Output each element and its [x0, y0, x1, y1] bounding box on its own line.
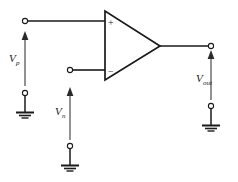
opamp-plus-sign: + [108, 17, 114, 28]
voltage-arrow-vn [67, 87, 74, 140]
ground-symbol-left [16, 90, 34, 118]
voltage-arrow-vout [208, 50, 215, 100]
arrow-head-vn-icon [67, 87, 74, 96]
circuit-diagram-canvas: + − V p [0, 0, 238, 182]
svg-text:p: p [15, 59, 20, 67]
input-terminal-minus[interactable] [67, 67, 72, 72]
svg-text:n: n [62, 112, 66, 120]
svg-text:out: out [203, 79, 213, 87]
ground-symbol-right [202, 103, 220, 131]
label-vn: V n [55, 105, 66, 120]
opamp-minus-sign: − [108, 66, 114, 77]
input-terminal-plus[interactable] [22, 18, 27, 23]
ground-symbol-middle [61, 143, 79, 171]
voltage-arrow-vp [22, 31, 29, 86]
arrow-head-vp-icon [22, 31, 29, 40]
ground-middle-terminal[interactable] [67, 143, 72, 148]
schematic-svg: + − V p [0, 0, 238, 182]
label-vp: V p [9, 52, 20, 67]
ground-right-terminal[interactable] [208, 103, 213, 108]
ground-left-terminal[interactable] [22, 90, 27, 95]
output-terminal[interactable] [208, 43, 213, 48]
arrow-head-vout-icon [208, 50, 215, 59]
